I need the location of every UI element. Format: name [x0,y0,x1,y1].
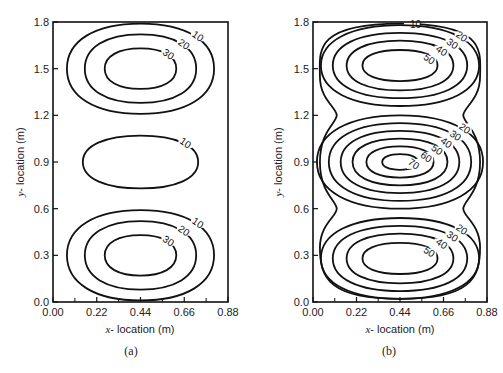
plot-frame [53,22,228,302]
y-tick-label: 0.6 [294,203,309,215]
y-tick-label: 1.5 [34,63,49,75]
x-tick-label: 0.00 [302,306,323,318]
y-axis-label-b: y- location (m) [272,127,284,197]
y-tick-label: 1.2 [34,109,49,121]
contour-plot-b: 1020304050203040506070203040500.00.30.60… [294,16,498,318]
y-tick-label: 1.5 [294,63,309,75]
y-tick-label: 0.6 [34,203,49,215]
y-tick-label: 1.2 [294,109,309,121]
x-axis-label-a: x- location (m) [104,323,174,335]
x-axis-label-b: x- location (m) [364,323,434,335]
y-tick-label: 0.9 [294,156,309,168]
x-tick-label: 0.44 [389,306,410,318]
plot-frame [313,22,487,302]
y-tick-label: 0.3 [294,249,309,261]
x-tick-label: 0.22 [86,306,107,318]
contour-label: 10 [410,19,422,30]
y-tick-label: 1.8 [34,16,49,28]
caption-b: (b) [382,344,396,358]
x-tick-label: 0.22 [346,306,367,318]
y-axis-label-a: y- location (m) [14,127,26,197]
x-tick-label: 0.88 [476,306,497,318]
x-tick-label: 0.44 [130,306,151,318]
contour-line [320,24,481,299]
x-tick-label: 0.00 [42,306,63,318]
y-tick-label: 0.3 [34,249,49,261]
caption-a: (a) [124,344,137,358]
figure: 102030101020300.00.30.60.91.21.51.80.000… [0,0,503,373]
y-tick-label: 0.9 [34,156,49,168]
y-tick-label: 1.8 [294,16,309,28]
x-tick-label: 0.66 [174,306,195,318]
contour-plot-a: 102030101020300.00.30.60.91.21.51.80.000… [34,16,239,318]
x-tick-label: 0.66 [433,306,454,318]
x-tick-label: 0.88 [217,306,238,318]
